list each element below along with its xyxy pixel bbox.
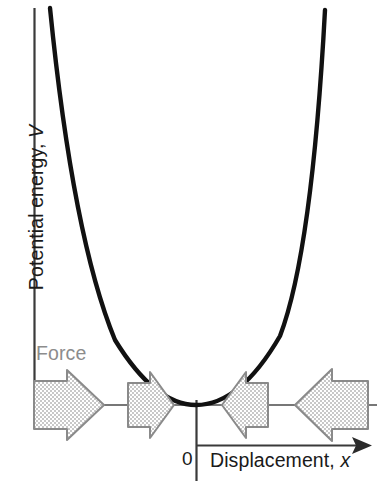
- y-axis-label: Potential energy, V: [25, 93, 48, 323]
- potential-energy-figure: Potential energy, V Displacement, x 0 Fo…: [0, 0, 377, 481]
- force-arrow-right-inner: [222, 372, 268, 438]
- force-label: Force: [36, 342, 86, 365]
- force-arrow-right-outer: [295, 369, 368, 441]
- origin-label: 0: [182, 448, 193, 470]
- x-axis-label: Displacement, x: [210, 449, 350, 472]
- potential-energy-curve: [50, 8, 325, 405]
- y-axis-label-symbol: V: [25, 125, 47, 138]
- y-axis-label-text: Potential energy,: [25, 144, 47, 291]
- figure-canvas: [0, 0, 377, 481]
- x-axis-label-symbol: x: [340, 449, 350, 471]
- x-axis-label-text: Displacement,: [210, 449, 335, 471]
- force-arrow-left-inner: [128, 372, 174, 438]
- force-arrow-left-outer: [34, 370, 104, 440]
